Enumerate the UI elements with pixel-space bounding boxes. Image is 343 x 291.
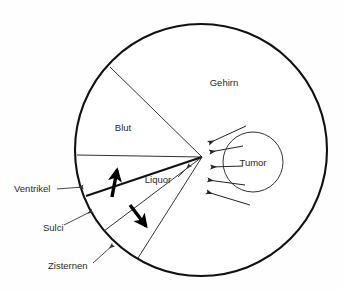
label-ventrikel: Ventrikel [14,183,50,194]
label-tumor: Tumor [239,157,266,168]
label-liquor: Liquor [145,174,171,185]
brain-outline-circle [75,24,327,276]
anatomy-diagram: Gehirn Blut Liquor Tumor Ventrikel Sulci… [0,0,343,291]
label-gehirn: Gehirn [210,77,239,88]
zisternen-leader [93,245,113,263]
diagram-root: Gehirn Blut Liquor Tumor Ventrikel Sulci… [0,0,343,291]
label-zisternen: Zisternen [48,260,88,271]
sulci-leader [64,211,92,225]
label-blut: Blut [115,122,132,133]
label-sulci: Sulci [43,222,64,233]
ventrikel-leader [57,187,83,189]
